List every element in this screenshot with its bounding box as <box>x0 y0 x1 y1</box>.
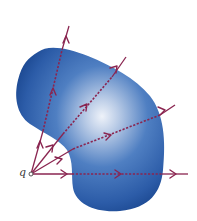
arrow-icon <box>37 141 43 148</box>
gauss-law-diagram <box>0 0 197 221</box>
arrow-icon <box>55 157 62 164</box>
field-line-2-outside-start <box>31 134 63 174</box>
point-charge <box>29 172 33 176</box>
closed-surface <box>16 48 164 212</box>
arrow-icon <box>63 36 69 43</box>
charge-label: q <box>19 166 26 179</box>
